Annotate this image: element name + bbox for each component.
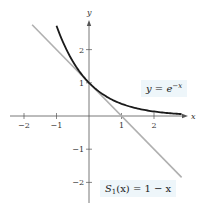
curve-label-exponent: −x [172, 82, 182, 90]
x-tick-label: 2 [151, 121, 156, 130]
y-axis-label: y [86, 8, 92, 17]
curve-label-eq: = [152, 83, 167, 94]
x-axis-arrow-icon [182, 114, 188, 118]
exp-curve-label: y = e−x [141, 80, 187, 97]
x-axis-label: x [191, 112, 196, 121]
y-tick-label: 1 [79, 79, 84, 88]
x-tick-label: −2 [18, 121, 30, 130]
y-tick-label: −2 [72, 178, 84, 187]
x-tick-label: 1 [119, 121, 124, 130]
x-tick-label: −1 [51, 121, 63, 130]
y-tick-label: 2 [79, 46, 84, 55]
line-label-s: S [105, 183, 112, 194]
y-tick-label: −1 [72, 145, 84, 154]
line-label-rest: (x) = 1 − x [116, 183, 171, 194]
taylor-line-label: S1(x) = 1 − x [100, 180, 176, 197]
taylor-line [32, 25, 182, 178]
y-axis-arrow-icon [87, 20, 91, 26]
